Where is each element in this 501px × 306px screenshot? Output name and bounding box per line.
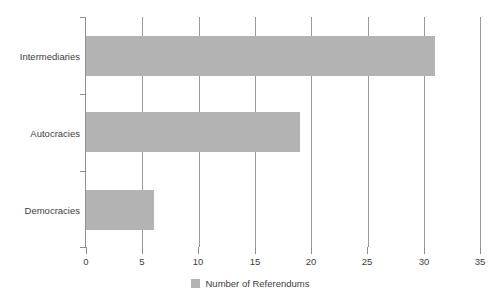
x-axis-tick-5 <box>142 247 143 254</box>
plot-area <box>86 17 480 247</box>
x-axis-label-35: 35 <box>460 256 500 268</box>
x-axis-label-25: 25 <box>347 256 387 268</box>
bar-democracies[interactable] <box>86 190 154 230</box>
bar-intermediaries[interactable] <box>86 36 435 76</box>
category-label-democracies: Democracies <box>2 205 80 216</box>
x-axis-tick-20 <box>311 247 312 254</box>
category-label-intermediaries: Intermediaries <box>2 51 80 62</box>
x-axis-label-5: 5 <box>122 256 162 268</box>
category-label-autocracies: Autocracies <box>2 128 80 139</box>
legend-swatch-icon <box>191 279 200 288</box>
x-axis-label-15: 15 <box>235 256 275 268</box>
x-axis-tick-25 <box>367 247 368 254</box>
bar-chart: Intermediaries Autocracies Democracies 0… <box>0 0 501 306</box>
chart-legend: Number of Referendums <box>0 278 501 289</box>
x-axis-label-20: 20 <box>291 256 331 268</box>
legend-label: Number of Referendums <box>205 278 309 289</box>
x-axis-label-30: 30 <box>404 256 444 268</box>
x-axis-label-10: 10 <box>178 256 218 268</box>
x-axis-tick-10 <box>198 247 199 254</box>
x-axis-label-0: 0 <box>66 256 106 268</box>
x-axis-tick-0 <box>86 247 87 254</box>
x-axis-tick-15 <box>255 247 256 254</box>
bar-autocracies[interactable] <box>86 112 300 152</box>
x-axis-tick-35 <box>480 247 481 254</box>
gridline-35 <box>480 17 481 247</box>
x-axis-tick-30 <box>424 247 425 254</box>
